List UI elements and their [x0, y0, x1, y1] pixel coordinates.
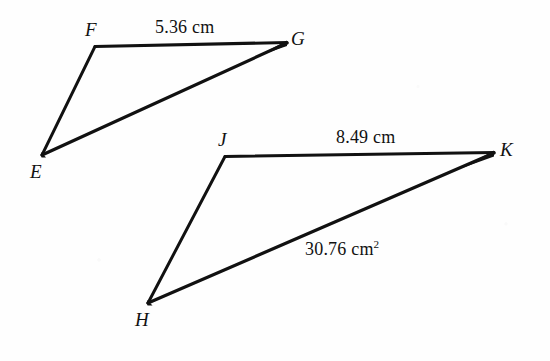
vertex-label-f: F — [85, 20, 97, 39]
vertex-label-k: K — [500, 140, 513, 159]
edge-fg — [95, 43, 287, 47]
measure-label-jk: 8.49 cm — [336, 128, 395, 146]
measure-label-hk-exponent: 2 — [374, 238, 380, 250]
edge-ef — [42, 47, 95, 156]
vertex-label-e: E — [30, 162, 42, 181]
edge-kh — [148, 153, 494, 303]
edge-ge — [42, 43, 287, 155]
triangle-hjk — [147, 151, 494, 306]
geometry-figure: E F G H J K 5.36 cm 8.49 cm 30.76 cm2 — [0, 0, 550, 361]
vertex-label-g: G — [291, 29, 305, 48]
figure-canvas — [0, 0, 550, 361]
measure-label-fg: 5.36 cm — [155, 18, 214, 36]
measure-label-hk-value: 30.76 cm — [305, 239, 374, 259]
measure-label-hk: 30.76 cm2 — [305, 240, 379, 258]
edge-hj — [148, 157, 225, 304]
vertex-label-j: J — [218, 130, 226, 149]
triangle-efg — [41, 41, 287, 158]
edge-jk — [225, 153, 494, 157]
vertex-label-h: H — [135, 310, 149, 329]
